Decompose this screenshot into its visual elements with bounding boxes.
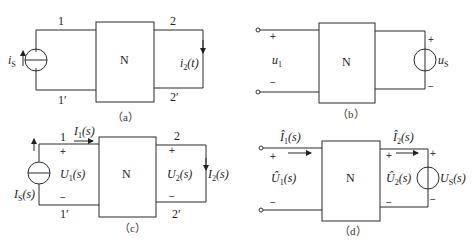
minus-sign: − (430, 194, 436, 205)
minus-sign: − (428, 81, 434, 92)
source-label-b: uS (438, 53, 448, 69)
wire-b-left (260, 30, 319, 92)
minus-sign: − (60, 192, 66, 203)
terminal-1: 1 (60, 130, 66, 144)
terminal-2-prime: 2′ (172, 207, 181, 221)
plus-sign: + (430, 148, 436, 159)
terminal-node (259, 208, 263, 212)
voltage-source-icon (417, 167, 439, 189)
source-label-c: IS(s) (13, 187, 35, 203)
current-source-icon (25, 49, 47, 71)
panel-a: iS N i2(t) 1 1′ 2 2′ （a） (8, 14, 203, 123)
minus-sign: − (386, 197, 392, 208)
network-label-c: N (122, 167, 131, 181)
terminal-2-prime: 2′ (170, 90, 179, 104)
plus-sign: + (270, 151, 276, 162)
plus-sign: + (428, 34, 434, 45)
terminal-node (256, 90, 260, 94)
terminal-1-prime: 1′ (60, 207, 69, 221)
panel-d: Î1(s) + − Û1(s) N Î2(s) + − Û2(s) + − US… (259, 130, 466, 237)
plus-sign: + (169, 145, 175, 156)
terminal-2: 2 (174, 129, 180, 143)
port1-voltage-b: u1 (272, 53, 282, 69)
minus-sign: − (270, 77, 276, 88)
circuit-figure: iS N i2(t) 1 1′ 2 2′ （a） + − u1 N + − uS… (0, 0, 472, 244)
network-label-a: N (120, 53, 129, 67)
network-label-b: N (342, 55, 351, 69)
plus-sign: + (60, 146, 66, 157)
network-label-d: N (346, 171, 355, 185)
port2-voltage-d: Û2(s) (386, 171, 411, 187)
source-label-a: iS (8, 53, 16, 69)
panel-b: + − u1 N + − uS （b） (256, 23, 448, 120)
caption-d: （d） (339, 225, 367, 237)
port1-voltage-c: U1(s) (60, 167, 85, 183)
source-label-d: US(s) (440, 171, 466, 187)
voltage-source-icon (414, 49, 436, 71)
current-source-icon (28, 162, 50, 184)
port2-voltage-c: U2(s) (167, 167, 192, 183)
output-label-a: i2(t) (180, 56, 199, 72)
panel-c: IS(s) 1 I1(s) + − U1(s) 1′ N 2 + − U2(s)… (13, 124, 229, 234)
terminal-node (256, 28, 260, 32)
minus-sign: − (169, 191, 175, 202)
plus-sign: + (386, 150, 392, 161)
port1-current-c: I1(s) (73, 124, 95, 140)
port2-current-d: Î2(s) (392, 130, 414, 146)
port2-current-c: I2(s) (207, 167, 229, 183)
wire-b-right (375, 31, 425, 89)
caption-b: （b） (337, 108, 365, 120)
plus-sign: + (270, 31, 276, 42)
port1-voltage-d: Û1(s) (271, 171, 296, 187)
port1-current-d: Î1(s) (279, 130, 301, 146)
caption-a: （a） (112, 111, 139, 123)
terminal-1-prime: 1′ (58, 93, 67, 107)
terminal-2: 2 (170, 14, 176, 28)
terminal-1: 1 (58, 14, 64, 28)
terminal-node (259, 146, 263, 150)
caption-c: （c） (119, 222, 146, 234)
minus-sign: − (270, 197, 276, 208)
